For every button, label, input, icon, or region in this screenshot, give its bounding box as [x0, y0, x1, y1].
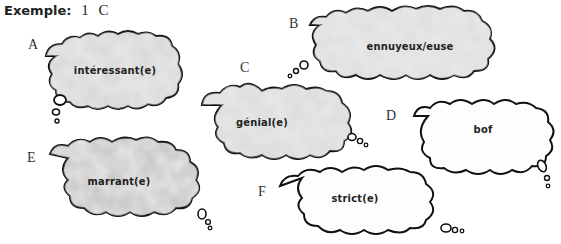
cloud-word-e: marrant(e) — [88, 175, 151, 188]
cloud-word-a: intéressant(e) — [74, 64, 156, 77]
cloud-word-d: bof — [474, 123, 493, 136]
cloud-letter-c: C — [240, 60, 249, 76]
cloud-letter-d: D — [386, 108, 396, 124]
cloud-word-b: ennuyeux/euse — [366, 40, 453, 53]
example-line: Exemple: 1 C — [4, 2, 112, 19]
exercise-illustration: Exemple: 1 C A intéressant(e) B ennuyeux… — [0, 0, 561, 244]
cloud-letter-f: F — [258, 184, 266, 200]
cloud-letter-e: E — [27, 150, 36, 166]
cloud-letter-b: B — [289, 16, 298, 32]
cloud-word-c: génial(e) — [236, 116, 288, 129]
example-answer: 1 C — [81, 2, 111, 18]
cloud-word-f: strict(e) — [331, 192, 378, 205]
example-label: Exemple: — [4, 3, 71, 18]
